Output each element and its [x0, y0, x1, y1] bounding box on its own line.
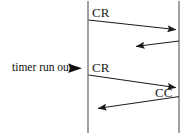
- message-label-cr-2: CR: [92, 61, 110, 74]
- message-arrow-cr-1: [89, 20, 177, 30]
- timing-diagram: CR CR CC timer run out: [0, 0, 194, 140]
- message-arrow-response-1: [136, 41, 179, 46]
- message-label-cc-1: CC: [155, 86, 173, 99]
- annotation-timer-run-out: timer run out: [12, 62, 72, 74]
- message-label-cr-1: CR: [92, 6, 110, 19]
